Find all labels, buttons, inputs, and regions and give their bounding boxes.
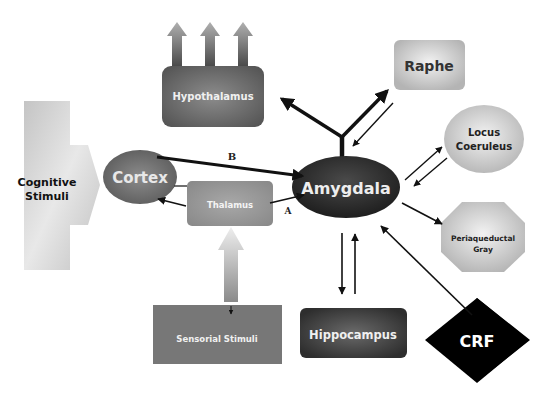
sensorial-stimuli-label: Sensorial Stimuli [176, 334, 257, 344]
amygdala-to-locus-arrow [405, 147, 442, 180]
locus-to-amygdala-arrow [414, 158, 447, 186]
hypothalamus-label: Hypothalamus [172, 91, 253, 102]
sensorial-up-arrow-icon [218, 227, 244, 302]
up-arrow-icon [233, 22, 253, 66]
periaqueductal-label-1: Periaqueductal [451, 234, 515, 243]
locus-coeruleus-label-2: Coeruleus [456, 141, 512, 152]
thalamus-node: Thalamus [187, 181, 273, 226]
pathway-b-label: B [228, 151, 236, 162]
amygdala-output-branch [282, 91, 393, 157]
locus-coeruleus-label-1: Locus [468, 127, 500, 138]
hypothalamus-node: Hypothalamus [162, 66, 264, 127]
amygdala-label: Amygdala [301, 179, 390, 198]
raphe-node: Raphe [394, 40, 465, 90]
crf-label: CRF [460, 332, 495, 351]
hypothalamus-output-arrows [167, 22, 253, 66]
up-arrow-icon [200, 22, 220, 66]
locus-coeruleus-node: Locus Coeruleus [444, 105, 524, 173]
periaqueductal-gray-node: Periaqueductal Gray [441, 202, 525, 272]
hippocampus-label: Hippocampus [309, 328, 397, 342]
amygdala-node: Amygdala [292, 156, 400, 218]
crf-node: CRF [425, 298, 530, 383]
cognitive-stimuli-node: Cognitive Stimuli [18, 101, 100, 270]
thalamus-label: Thalamus [207, 200, 253, 210]
periaqueductal-label-2: Gray [473, 245, 493, 254]
hippocampus-node: Hippocampus [300, 308, 407, 358]
cognitive-stimuli-label-1: Cognitive [18, 176, 77, 189]
cognitive-stimuli-label-2: Stimuli [25, 190, 69, 203]
sensorial-stimuli-node: Sensorial Stimuli [153, 227, 282, 364]
up-arrow-icon [167, 22, 187, 66]
amygdala-to-pag-arrow [402, 203, 442, 224]
raphe-label: Raphe [404, 58, 454, 74]
thalamus-to-cortex-arrow [158, 199, 186, 206]
pathway-a-label: A [284, 206, 293, 216]
amygdala-circuit-diagram: Cognitive Stimuli Hypothalamus Raphe Loc… [0, 0, 551, 402]
cortex-label: Cortex [112, 169, 168, 187]
